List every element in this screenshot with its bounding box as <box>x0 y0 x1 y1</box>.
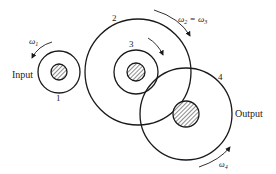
gear-3-shaft <box>127 63 145 81</box>
input-label: Input <box>12 69 33 80</box>
omega2-omega3-label: ω2 = ω3 <box>178 14 207 25</box>
gear-1-label: 1 <box>56 93 61 103</box>
omega1-label: ω1 <box>29 36 38 47</box>
omega3-arrow-icon <box>148 38 163 55</box>
omega4-label: ω4 <box>219 160 228 170</box>
gear-2-label: 2 <box>112 13 117 23</box>
gear-1-shaft <box>51 64 67 80</box>
output-label: Output <box>235 108 263 119</box>
gear-3-label: 3 <box>129 39 134 49</box>
gear-train-diagram: Input Output 1 2 3 4 ω1 ω2 = ω3 ω4 <box>0 0 276 174</box>
gear-4-shaft <box>173 101 199 127</box>
gear-4-label: 4 <box>218 72 223 82</box>
